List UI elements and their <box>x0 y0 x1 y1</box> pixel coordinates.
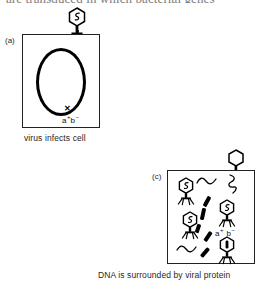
phage-tail-fibers-icon <box>219 258 234 263</box>
panel-a-caption: virus infects cell <box>24 133 86 143</box>
transduction-figure: are transduced in which bacterial genes … <box>0 0 273 284</box>
viral-dna-squiggle-3 <box>176 244 198 254</box>
phage-tail-fibers-icon <box>182 233 197 238</box>
phage-tail-fibers-icon <box>219 221 234 226</box>
genotype-label-a: a+b− <box>62 114 79 125</box>
gene-a-superscript: + <box>220 227 224 233</box>
phage-tail-icon <box>185 193 187 198</box>
gene-b-superscript: − <box>76 114 80 120</box>
panel-c-caption: DNA is surrounded by viral protein <box>98 270 230 280</box>
viral-dna-squiggle-1 <box>196 176 218 186</box>
clipped-heading: are transduced in which bacterial genes <box>6 0 268 3</box>
panel-a-label: (a) <box>5 36 15 45</box>
gene-b-superscript: − <box>231 227 235 233</box>
viral-dna-squiggle-2 <box>226 174 240 194</box>
phage-assembled-3 <box>214 198 240 228</box>
phage-head-icon <box>229 150 243 166</box>
chromosome-marker-icon: ✕ <box>64 104 71 113</box>
panel-c-label: (c) <box>152 172 161 181</box>
phage-tail-icon <box>189 227 191 232</box>
phage-tail-fibers-icon <box>178 199 193 204</box>
bacterial-chromosome-loop <box>36 48 86 116</box>
phage-tail-icon <box>226 215 228 220</box>
phage-tail-icon <box>226 252 228 257</box>
phage-baseplate-icon <box>222 219 232 221</box>
transducing-particle <box>214 235 240 265</box>
phage-baseplate-icon <box>181 197 191 199</box>
bacterial-dna-fragment-icon <box>226 240 229 248</box>
phage-baseplate-icon <box>185 231 195 233</box>
phage-baseplate-icon <box>222 256 232 258</box>
